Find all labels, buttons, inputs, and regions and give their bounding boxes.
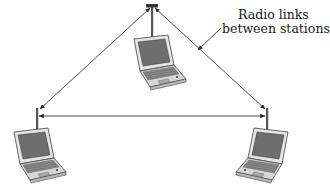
antenna-mast-icon [266,108,268,130]
callout-arrow [198,28,221,50]
callout-label-line1: Radio links [238,8,309,22]
antenna-mast-icon [151,7,153,37]
callout-label-line2: between stations [222,22,330,36]
station-right [236,108,288,183]
laptop-icon [134,35,186,90]
station-left [14,108,66,183]
laptop-icon [14,128,66,183]
antenna-mast-icon [36,108,38,130]
antenna-tip-icon [146,4,158,8]
radio-link-top-left [40,8,150,109]
laptop-icon [236,128,288,183]
station-top [134,4,186,90]
